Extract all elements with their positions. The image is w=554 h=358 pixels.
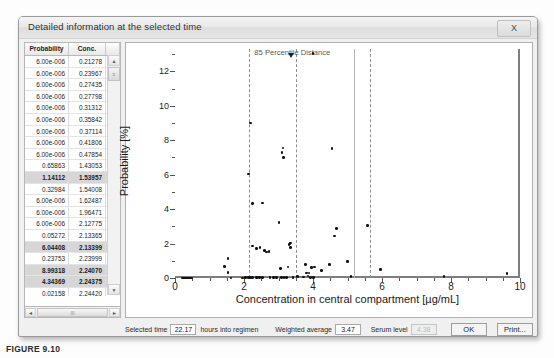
title-bar: Detailed information at the selected tim… — [19, 17, 537, 39]
x-tick-minor — [210, 278, 211, 281]
cell-conc: 1.62487 — [69, 195, 106, 206]
table-row[interactable]: 4.343692.24375 — [25, 276, 120, 288]
scroll-up-glyph: ▲ — [109, 56, 119, 66]
cell-probability: 6.00e-006 — [25, 137, 69, 148]
table-row[interactable]: 0.237532.23999 — [25, 253, 120, 265]
cell-probability: 6.00e-006 — [25, 56, 69, 67]
table-row[interactable]: 6.00e-0060.21278 — [25, 56, 120, 68]
scroll-down-glyph: ▼ — [109, 285, 119, 295]
cell-probability: 6.04408 — [25, 242, 69, 253]
y-tick-major — [170, 244, 175, 245]
y-tick-label: 6 — [164, 170, 169, 180]
cell-probability: 6.00e-006 — [25, 68, 69, 79]
cell-conc: 2.24375 — [69, 276, 106, 287]
horizontal-scroll-thumb[interactable]: III — [37, 308, 108, 317]
cell-conc: 0.37114 — [69, 126, 106, 137]
x-tick-label: 8 — [448, 281, 454, 292]
x-tick-minor — [365, 278, 366, 281]
scatter-point — [302, 276, 305, 279]
vertical-scroll-thumb[interactable]: ≡ — [108, 67, 120, 81]
scatter-point — [249, 122, 252, 125]
table-row[interactable]: 6.00e-0060.37114 — [25, 126, 120, 138]
table-row[interactable]: 0.021582.24420 — [25, 288, 120, 296]
cell-probability: 6.00e-006 — [25, 195, 69, 206]
cell-probability: 0.02158 — [25, 288, 69, 296]
scatter-point — [272, 276, 275, 279]
y-tick-major — [170, 106, 175, 107]
close-icon[interactable]: X — [497, 20, 531, 37]
scroll-up-icon[interactable]: ▲ — [108, 55, 120, 66]
vertical-thumb-glyph: ≡ — [109, 68, 119, 81]
x-tick-label: 10 — [514, 281, 525, 292]
selected-time-input[interactable]: 22.17 — [170, 324, 196, 335]
scatter-point — [331, 147, 334, 150]
table-row[interactable]: 6.00e-0060.27435 — [25, 79, 120, 91]
cell-probability: 0.05272 — [25, 230, 69, 241]
probability-conc-table[interactable]: Probability Conc. 6.00e-0060.212786.00e-… — [24, 42, 121, 307]
table-row[interactable]: 6.00e-0060.31312 — [25, 102, 120, 114]
scatter-point — [223, 265, 226, 268]
cell-probability: 6.00e-006 — [25, 114, 69, 125]
scatter-point — [255, 247, 258, 250]
cell-conc: 0.35842 — [69, 114, 106, 125]
y-tick-minor — [172, 123, 175, 124]
scroll-down-icon[interactable]: ▼ — [108, 284, 120, 295]
cell-probability: 6.00e-006 — [25, 79, 69, 90]
table-row[interactable]: 6.00e-0061.96471 — [25, 207, 120, 219]
table-row[interactable]: 6.00e-0060.27798 — [25, 91, 120, 103]
window-title: Detailed information at the selected tim… — [28, 21, 202, 32]
table-row[interactable]: 6.00e-0060.41806 — [25, 137, 120, 149]
table-row[interactable]: 6.044082.13399 — [25, 242, 120, 254]
cell-conc: 0.21278 — [69, 56, 106, 67]
scroll-left-icon[interactable]: ◄ — [25, 308, 36, 317]
table-row[interactable]: 1.141121.53957 — [25, 172, 120, 184]
y-tick-label: 0 — [164, 273, 169, 283]
scatter-point — [269, 276, 272, 279]
table-row[interactable]: 6.00e-0060.35842 — [25, 114, 120, 126]
table-row[interactable]: 6.00e-0061.62487 — [25, 195, 120, 207]
weighted-average-label: Weighted average — [275, 326, 332, 333]
x-tick-minor — [468, 278, 469, 281]
cell-conc: 0.27435 — [69, 79, 106, 90]
selected-time-label: Selected time — [125, 326, 167, 333]
scatter-point — [285, 276, 288, 279]
table-row[interactable]: 6.00e-0060.47854 — [25, 149, 120, 161]
scatter-point — [328, 263, 331, 266]
column-header-probability[interactable]: Probability — [25, 43, 69, 55]
cell-probability: 0.23753 — [25, 253, 69, 264]
table-row[interactable]: 8.993182.24070 — [25, 265, 120, 277]
y-tick-minor — [172, 54, 175, 55]
cell-conc: 2.13365 — [69, 230, 106, 241]
reference-line-1 — [296, 49, 297, 278]
reference-line-0 — [249, 49, 250, 278]
table-horizontal-scrollbar[interactable]: ◄ III ► — [24, 307, 121, 318]
scatter-point — [350, 275, 353, 278]
table-row[interactable]: 0.658631.43053 — [25, 160, 120, 172]
x-tick-label: 0 — [172, 281, 178, 292]
reference-line-2 — [354, 49, 355, 278]
mouse-cursor-icon — [288, 53, 294, 58]
table-row[interactable]: 6.00e-0062.12775 — [25, 218, 120, 230]
cell-conc: 0.23967 — [69, 68, 106, 79]
ok-button[interactable]: OK — [451, 323, 487, 336]
cell-conc: 1.96471 — [69, 207, 106, 218]
x-tick-minor — [296, 278, 297, 281]
cell-probability: 6.00e-006 — [25, 102, 69, 113]
cell-probability: 8.99318 — [25, 265, 69, 276]
scatter-point — [287, 266, 290, 269]
table-row[interactable]: 0.329841.54008 — [25, 184, 120, 196]
scatter-point — [335, 227, 338, 230]
x-axis-label: Concentration in central compartment [µg… — [175, 293, 520, 305]
cell-probability: 1.14112 — [25, 172, 69, 183]
scroll-right-icon[interactable]: ► — [109, 308, 120, 317]
weighted-average-input[interactable]: 3.47 — [335, 324, 361, 335]
table-row[interactable]: 6.00e-0060.23967 — [25, 68, 120, 80]
table-row[interactable]: 0.052722.13365 — [25, 230, 120, 242]
y-tick-minor — [172, 192, 175, 193]
column-header-spacer — [106, 43, 120, 55]
print-button[interactable]: Print... — [497, 323, 533, 336]
scatter-point — [251, 276, 254, 279]
scatter-point — [251, 202, 254, 205]
column-header-conc[interactable]: Conc. — [69, 43, 106, 55]
scatter-point — [289, 242, 292, 245]
